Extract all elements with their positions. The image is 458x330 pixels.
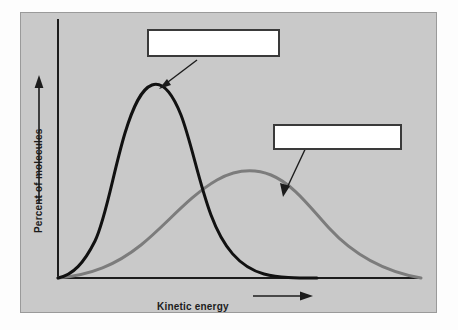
callout-box-2-text [275,126,400,148]
y-axis-label: Percent of molecules [33,128,44,233]
callout-box-1-text [149,31,278,55]
callout-1-leader-arrow [159,60,197,89]
x-axis-label: Kinetic energy [157,301,229,312]
callout-box-1[interactable] [147,29,280,57]
lower-temperature-curve [58,84,317,278]
y-axis-label-container: Percent of molecules [31,113,49,233]
plot-frame: Percent of molecules Kinetic energy [20,12,437,313]
maxwell-boltzmann-distribution-chart [21,13,436,312]
callout-box-2[interactable] [273,124,402,150]
x-axis-right-arrow-icon [253,292,313,301]
figure-root: Percent of molecules Kinetic energy [0,0,458,330]
